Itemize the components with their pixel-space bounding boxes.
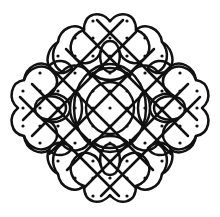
kolam-dot	[91, 159, 94, 162]
kolam-dot	[108, 36, 111, 39]
kolam-dot	[143, 36, 146, 39]
kolam-dot	[195, 124, 198, 127]
kolam-dot	[108, 176, 111, 179]
kolam-dot	[21, 89, 24, 92]
kolam-dot	[143, 54, 146, 57]
kolam-dot	[108, 194, 111, 197]
kolam-dot	[73, 71, 76, 74]
kolam-dot	[73, 141, 76, 144]
kolam-drawing	[0, 0, 220, 217]
kolam-dot	[143, 89, 146, 92]
kolam-dot	[125, 19, 128, 22]
kolam-dot	[73, 106, 76, 109]
kolam-dot	[160, 141, 163, 144]
kolam-dot	[178, 124, 181, 127]
kolam-dot	[108, 54, 111, 57]
kolam-dot	[125, 194, 128, 197]
kolam-dot	[91, 19, 94, 22]
kolam-dot	[91, 124, 94, 127]
kolam-dot	[178, 71, 181, 74]
kolam-dot	[178, 89, 181, 92]
kolam-dot	[143, 124, 146, 127]
kolam-dot	[38, 124, 41, 127]
kolam-dot	[143, 71, 146, 74]
kolam-dot	[160, 124, 163, 127]
kolam-dot	[125, 124, 128, 127]
kolam-dot	[91, 36, 94, 39]
kolam-dot	[143, 141, 146, 144]
kolam-dot	[56, 141, 59, 144]
kolam-dot	[56, 89, 59, 92]
kolam-dot	[195, 106, 198, 109]
kolam-dot	[143, 106, 146, 109]
kolam-dot	[38, 141, 41, 144]
kolam-dot	[56, 159, 59, 162]
kolam-dot	[91, 141, 94, 144]
kolam-dot	[108, 141, 111, 144]
kolam-figure: Sikku Kolam Traditional South Indian loo…	[0, 0, 220, 217]
kolam-dot	[56, 106, 59, 109]
kolam-dot	[38, 89, 41, 92]
kolam-dot	[125, 176, 128, 179]
kolam-dot	[73, 176, 76, 179]
kolam-dot	[21, 106, 24, 109]
kolam-dot	[91, 176, 94, 179]
kolam-dot	[125, 54, 128, 57]
kolam-dot	[108, 19, 111, 22]
kolam-dot	[178, 106, 181, 109]
kolam-dot	[125, 36, 128, 39]
kolam-dot	[91, 54, 94, 57]
kolam-dot	[73, 159, 76, 162]
kolam-dot	[160, 71, 163, 74]
kolam-dot	[108, 106, 111, 109]
kolam-dot	[91, 194, 94, 197]
kolam-dot	[125, 141, 128, 144]
kolam-dot	[91, 89, 94, 92]
kolam-dot	[143, 176, 146, 179]
kolam-dot	[160, 54, 163, 57]
kolam-dot	[125, 159, 128, 162]
kolam-dot	[160, 159, 163, 162]
kolam-dot	[38, 106, 41, 109]
kolam-dot	[195, 89, 198, 92]
kolam-dot	[56, 71, 59, 74]
kolam-dot	[160, 106, 163, 109]
kolam-dot	[108, 71, 111, 74]
kolam-dot	[143, 159, 146, 162]
kolam-dot	[38, 71, 41, 74]
kolam-dot	[108, 124, 111, 127]
kolam-dot	[56, 54, 59, 57]
kolam-dot	[108, 159, 111, 162]
kolam-dot	[21, 124, 24, 127]
kolam-dot	[125, 71, 128, 74]
kolam-dot	[178, 141, 181, 144]
kolam-dot	[91, 106, 94, 109]
kolam-dot	[73, 54, 76, 57]
kolam-dot	[91, 71, 94, 74]
kolam-dot	[160, 89, 163, 92]
kolam-dot	[56, 124, 59, 127]
kolam-dot	[73, 124, 76, 127]
kolam-dot	[125, 106, 128, 109]
kolam-dot	[125, 89, 128, 92]
kolam-dot	[73, 36, 76, 39]
kolam-dot	[73, 89, 76, 92]
kolam-dot	[108, 89, 111, 92]
